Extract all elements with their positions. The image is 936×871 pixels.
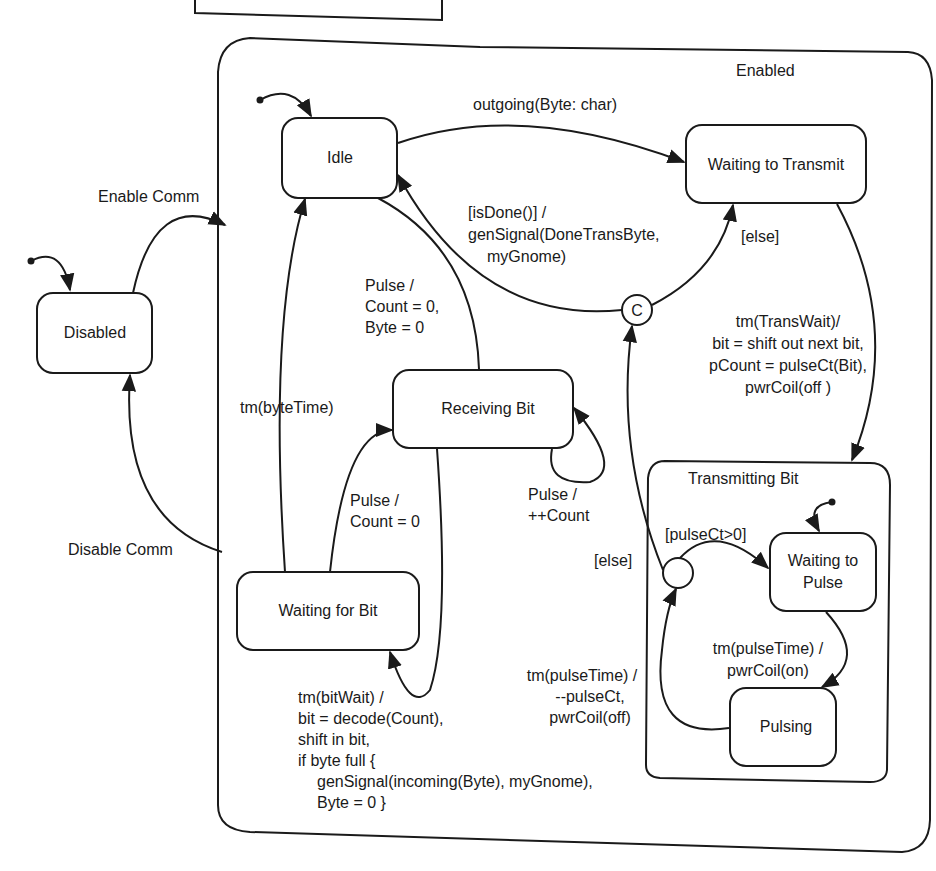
label-else-top: [else] [741,228,779,245]
state-waiting-for-bit-label: Waiting for Bit [279,602,379,619]
state-waiting-to-pulse [770,533,876,611]
label-is-done-1: [isDone()] / [468,204,547,221]
initial-transition-disabled [31,257,70,290]
enabled-label: Enabled [736,62,795,79]
label-disable-comm: Disable Comm [68,541,173,558]
label-pulse-reset-3: Byte = 0 [365,319,424,336]
label-trans-wait-2: bit = shift out next bit, [712,335,864,352]
label-outgoing: outgoing(Byte: char) [473,96,617,113]
junction-pseudostate [663,558,693,588]
transition-disable-comm [129,375,222,552]
label-byte-time: tm(byteTime) [240,399,334,416]
label-pulse-time-on-2: pwrCoil(on) [727,662,809,679]
state-disabled-label: Disabled [64,324,126,341]
label-pulse-count0-1: Pulse / [350,492,399,509]
label-pulse-time-on-1: tm(pulseTime) / [713,640,824,657]
label-pulse-reset-2: Count = 0, [365,298,439,315]
label-trans-wait-3: pCount = pulseCt(Bit), [709,357,867,374]
label-pulse-time-off-2: --pulseCt, [555,688,624,705]
transmitting-bit-label: Transmitting Bit [688,470,799,487]
state-waiting-to-transmit-label: Waiting to Transmit [708,156,845,173]
label-trans-wait-1: tm(TransWait)/ [736,313,841,330]
state-pulsing-label: Pulsing [760,718,812,735]
state-waiting-to-pulse-label-2: Pulse [803,574,843,591]
label-bit-wait-5: genSignal(incoming(Byte), myGnome), [317,773,593,790]
label-is-done-3: myGnome) [487,248,566,265]
label-bit-wait-6: Byte = 0 } [317,794,387,811]
state-idle-label: Idle [327,149,353,166]
label-pulse-inc-1: Pulse / [528,486,577,503]
state-waiting-to-pulse-label-1: Waiting to [788,552,859,569]
label-pulse-time-off-1: tm(pulseTime) / [527,667,638,684]
state-receiving-bit-label: Receiving Bit [441,400,535,417]
label-pulse-inc-2: ++Count [528,507,590,524]
choice-c-label: C [631,302,643,319]
label-is-done-2: genSignal(DoneTransByte, [468,226,660,243]
cropped-top-box [195,0,442,20]
label-bit-wait-4: if byte full { [298,752,376,769]
label-bit-wait-3: shift in bit, [298,731,370,748]
label-pulse-reset-1: Pulse / [365,277,414,294]
label-trans-wait-4: pwrCoil(off ) [745,379,831,396]
transition-enable-comm [133,216,225,293]
label-pulse-count0-2: Count = 0 [350,513,420,530]
label-bit-wait-1: tm(bitWait) / [298,689,384,706]
label-enable-comm: Enable Comm [98,188,199,205]
label-pulse-ct-gt0: [pulseCt>0] [665,526,746,543]
state-machine-diagram: Enabled Disabled Enable Comm Disable Com… [0,0,936,871]
label-pulse-time-off-3: pwrCoil(off) [549,709,631,726]
label-bit-wait-2: bit = decode(Count), [298,710,443,727]
label-else-bottom: [else] [594,552,632,569]
